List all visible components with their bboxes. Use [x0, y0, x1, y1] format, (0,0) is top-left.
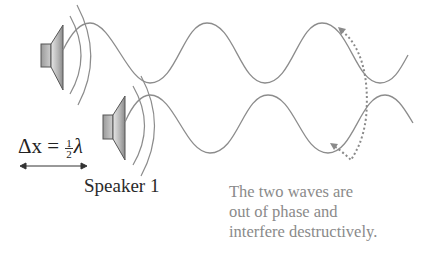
- equals-sign: =: [47, 134, 59, 158]
- lambda-symbol: λ: [74, 134, 83, 158]
- delta-x-equation: Δx = 1 2 λ: [18, 134, 83, 159]
- top-sound-arcs: [70, 5, 91, 105]
- delta-x-lhs: Δx: [18, 134, 42, 158]
- top-wave: [63, 23, 408, 83]
- speaker-1-label: Speaker 1: [84, 175, 159, 197]
- top-speaker-icon: [41, 25, 63, 90]
- note-line-2: out of phase and: [229, 202, 425, 222]
- note-line-1: The two waves are: [229, 182, 425, 202]
- arrowhead-top-icon: [338, 27, 346, 35]
- arrowhead-bottom-icon: [330, 143, 338, 150]
- delta-x-double-arrow: [20, 163, 87, 169]
- bottom-sound-arcs: [133, 76, 155, 176]
- bottom-speaker-icon: [103, 96, 125, 160]
- interference-note: The two waves are out of phase and inter…: [229, 182, 425, 242]
- note-line-3: interfere destructively.: [229, 222, 425, 242]
- bottom-wave: [125, 95, 413, 153]
- fraction-one-half: 1 2: [65, 138, 73, 159]
- fraction-denominator: 2: [65, 149, 73, 159]
